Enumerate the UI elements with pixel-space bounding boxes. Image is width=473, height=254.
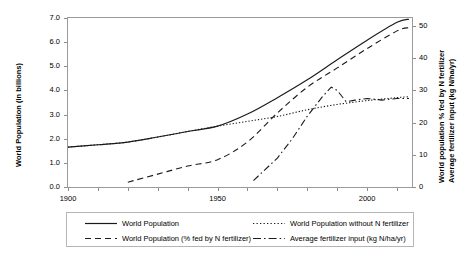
y-tick-label-left: 2.0 [34, 134, 60, 143]
legend-swatch-dashed [84, 234, 118, 243]
x-tick-label: 1950 [198, 194, 238, 203]
y-axis-title-right-primary: World population % fed by N fertilizer [437, 50, 446, 183]
y-tick-label-right: 30 [419, 85, 445, 94]
x-tick-label: 2000 [347, 194, 387, 203]
x-tick [188, 188, 189, 191]
x-tick [367, 188, 368, 191]
y-axis-title-right-secondary: Average fertilizer input (kg N/ha/yr) [447, 59, 456, 183]
y-tick-left [64, 66, 67, 67]
y-tick-label-right: 0 [419, 182, 445, 191]
y-tick-label-left: 3.0 [34, 110, 60, 119]
x-tick [158, 188, 159, 191]
series-line-1 [68, 97, 409, 147]
x-tick-label: 1900 [48, 194, 88, 203]
chart-legend: World Population World Population withou… [66, 212, 414, 247]
x-tick [277, 188, 278, 191]
x-tick [98, 188, 99, 191]
y-tick-left [64, 90, 67, 91]
y-tick-left [64, 18, 67, 19]
x-tick [397, 188, 398, 191]
legend-item: Average fertilizer input (kg N/ha/yr) [252, 231, 412, 246]
y-tick-left [64, 115, 67, 116]
legend-item: World Population without N fertilizer [252, 216, 412, 231]
y-tick-label-right: 50 [419, 21, 445, 30]
x-tick [128, 188, 129, 191]
x-tick [218, 188, 219, 191]
y-tick-label-right: 40 [419, 53, 445, 62]
y-tick-right [413, 155, 416, 156]
y-axis-title-left: World Population (in billions) [14, 63, 23, 167]
y-tick-right [413, 187, 416, 188]
y-tick-right [413, 123, 416, 124]
legend-label: Average fertilizer input (kg N/ha/yr) [290, 234, 406, 243]
y-tick-left [64, 139, 67, 140]
legend-swatch-dashdot [252, 234, 286, 243]
series-line-0 [68, 19, 409, 147]
y-tick-left [64, 42, 67, 43]
y-tick-label-left: 1.0 [34, 158, 60, 167]
legend-label: World Population without N fertilizer [290, 219, 409, 228]
y-tick-label-left: 0.0 [34, 182, 60, 191]
legend-item: World Population [84, 216, 252, 231]
y-tick-right [413, 90, 416, 91]
legend-label: World Population [122, 219, 179, 228]
y-tick-label-left: 5.0 [34, 61, 60, 70]
x-tick [247, 188, 248, 191]
y-tick-right [413, 26, 416, 27]
series-line-3 [253, 87, 409, 180]
legend-swatch-solid [84, 219, 118, 228]
plot-svg [68, 18, 412, 187]
chart-figure: World Population (in billions) World pop… [0, 0, 473, 254]
y-tick-label-left: 6.0 [34, 37, 60, 46]
y-tick-label-left: 7.0 [34, 13, 60, 22]
y-tick-label-left: 4.0 [34, 85, 60, 94]
plot-area [67, 17, 413, 188]
x-tick [68, 188, 69, 191]
series-line-2 [128, 28, 409, 183]
x-tick [337, 188, 338, 191]
legend-item: World Population (% fed by N fertilizer) [84, 231, 252, 246]
y-tick-left [64, 187, 67, 188]
y-tick-right [413, 58, 416, 59]
legend-swatch-dotted [252, 219, 286, 228]
legend-label: World Population (% fed by N fertilizer) [122, 234, 251, 243]
y-tick-label-right: 20 [419, 118, 445, 127]
y-tick-left [64, 163, 67, 164]
y-tick-label-right: 10 [419, 150, 445, 159]
x-tick [307, 188, 308, 191]
